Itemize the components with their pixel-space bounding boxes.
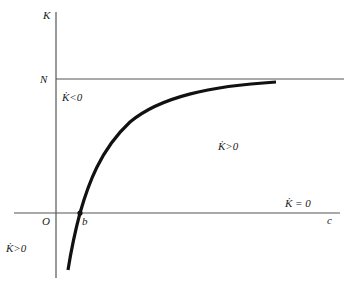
region-label-above: K̇<0 <box>61 91 83 103</box>
nullcline-label: K̇ = 0 <box>284 197 311 209</box>
y-axis-label: K <box>42 9 51 21</box>
origin-label: O <box>42 215 50 227</box>
region-label-right: K̇>0 <box>217 140 239 152</box>
x-axis-label: c <box>327 214 332 226</box>
intercept-label: b <box>82 215 88 227</box>
phase-diagram: K N O b c K̇<0 K̇>0 K̇>0 K̇ = 0 <box>0 0 351 287</box>
region-label-lower-left: K̇>0 <box>5 242 27 254</box>
k-dot-zero-curve <box>68 82 276 270</box>
asymptote-label: N <box>39 73 48 85</box>
